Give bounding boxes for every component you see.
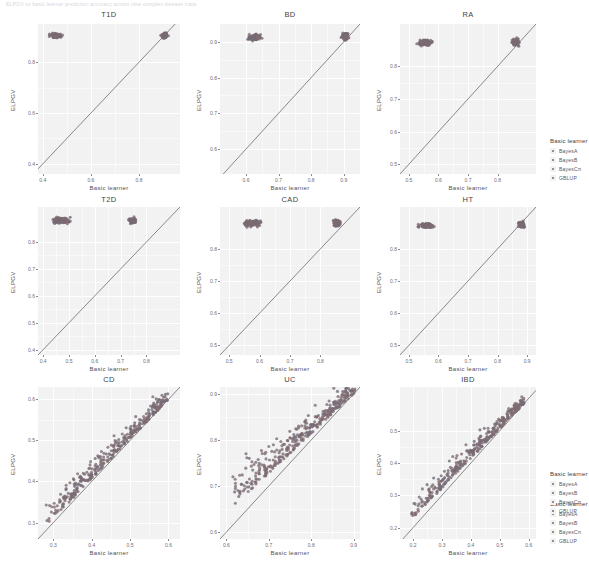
plot-background [220, 207, 360, 355]
top-caption: ELPGV vs basic learner prediction accura… [6, 1, 336, 9]
legend-item-1[interactable]: BayesB [550, 156, 588, 164]
y-tick-mark [218, 486, 220, 487]
y-tick-label: 0.8 [22, 239, 35, 245]
y-tick-mark [36, 399, 38, 400]
y-tick-mark [398, 431, 400, 432]
x-tick-label: 0.5 [491, 542, 509, 548]
scatter-points [220, 387, 360, 539]
x-tick-label: 0.7 [112, 358, 130, 364]
x-tick-label: 0.8 [489, 358, 507, 364]
y-tick-mark [36, 350, 38, 351]
legend-swatch-icon [550, 508, 556, 514]
y-tick-mark [218, 149, 220, 150]
y-tick-mark [398, 99, 400, 100]
plot-area [400, 387, 536, 539]
legend-item-3[interactable]: GBLUP [550, 174, 588, 182]
x-tick-label: 0.6 [159, 542, 177, 548]
panel-title: HT [400, 195, 536, 207]
legend-dot-icon [552, 501, 555, 504]
legend-dot-icon [552, 159, 555, 162]
y-tick-mark [36, 164, 38, 165]
legend-item-label: BayesA [559, 481, 577, 487]
plot-area [400, 24, 536, 174]
x-tick-label: 0.5 [60, 358, 78, 364]
y-tick-mark [218, 394, 220, 395]
x-tick-label: 0.4 [34, 358, 52, 364]
facet-panel-ra: RA0.50.60.70.80.50.60.70.8ELPGVBasic lea… [366, 10, 589, 195]
legend-item-2[interactable]: BayesCπ [550, 165, 588, 173]
legend: Basic learnerBayesABayesBBayesCπGBLUP [550, 138, 588, 183]
y-tick-label: 0.5 [384, 428, 397, 434]
x-axis-label: Basic learner [220, 550, 360, 556]
y-tick-label: 0.5 [22, 437, 35, 443]
y-tick-mark [398, 463, 400, 464]
y-axis-label: ELPGV [376, 453, 382, 475]
y-tick-mark [36, 242, 38, 243]
legend-item-0[interactable]: BayesA [550, 147, 588, 155]
panel-title: T1D [38, 10, 180, 22]
legend-swatch-icon [550, 148, 556, 154]
legend-item-0[interactable]: BayesA [550, 480, 588, 488]
y-tick-mark [398, 281, 400, 282]
x-tick-label: 0.8 [489, 177, 507, 183]
y-tick-label: 0.2 [384, 525, 397, 531]
x-tick-mark [92, 539, 93, 541]
y-tick-mark [398, 66, 400, 67]
y-tick-label: 0.8 [204, 75, 217, 81]
legend-swatch-icon [550, 499, 556, 505]
x-tick-mark [344, 174, 345, 176]
y-tick-mark [36, 113, 38, 114]
scatter-points [400, 387, 536, 539]
y-tick-label: 0.6 [22, 110, 35, 116]
y-tick-mark [218, 249, 220, 250]
plot-background [400, 387, 536, 539]
y-tick-label: 0.7 [22, 266, 35, 272]
legend-item-3[interactable]: GBLUP [550, 507, 588, 515]
x-tick-mark [311, 174, 312, 176]
legend-item-label: BayesB [559, 490, 577, 496]
legend-dot-icon [552, 483, 555, 486]
y-tick-label: 0.3 [22, 520, 35, 526]
x-tick-mark [413, 539, 414, 541]
x-tick-mark [130, 539, 131, 541]
legend-item-label: BayesA [559, 148, 577, 154]
x-tick-label: 0.6 [429, 358, 447, 364]
y-tick-mark [398, 249, 400, 250]
x-tick-mark [121, 355, 122, 357]
y-tick-mark [218, 532, 220, 533]
scatter-points [38, 24, 180, 174]
x-axis-label: Basic learner [400, 550, 536, 556]
y-tick-mark [218, 113, 220, 114]
legend-item-1[interactable]: BayesB [550, 489, 588, 497]
x-tick-mark [279, 174, 280, 176]
x-tick-label: 0.8 [137, 358, 155, 364]
x-tick-mark [529, 539, 530, 541]
y-tick-label: 0.7 [204, 483, 217, 489]
x-tick-mark [409, 174, 410, 176]
x-axis-label: Basic learner [400, 185, 536, 191]
x-tick-mark [471, 539, 472, 541]
plot-background [400, 207, 536, 355]
y-tick-label: 0.4 [22, 347, 35, 353]
x-tick-mark [438, 174, 439, 176]
y-tick-label: 0.5 [22, 320, 35, 326]
y-tick-label: 0.6 [22, 293, 35, 299]
y-tick-label: 0.8 [384, 63, 397, 69]
y-tick-mark [398, 313, 400, 314]
x-axis-label: Basic learner [400, 366, 536, 372]
y-tick-mark [36, 269, 38, 270]
y-tick-label: 0.6 [22, 396, 35, 402]
x-axis-label: Basic learner [38, 185, 180, 191]
legend-item-2[interactable]: BayesCπ [550, 498, 588, 506]
legend-swatch-icon [550, 481, 556, 487]
y-tick-label: 0.8 [384, 246, 397, 252]
facet-grid: T1D0.40.60.80.40.60.8ELPGVBasic learnerB… [0, 10, 589, 566]
x-tick-label: 0.8 [311, 358, 329, 364]
y-axis-label: ELPGV [10, 89, 16, 111]
x-tick-mark [146, 355, 147, 357]
x-tick-label: 0.7 [260, 542, 278, 548]
legend-dot-icon [552, 510, 555, 513]
facet-panel-ht: HT0.50.60.70.80.50.60.70.80.9ELPGVBasic … [366, 195, 589, 375]
x-tick-mark [442, 539, 443, 541]
panel-title: IBD [400, 375, 536, 387]
